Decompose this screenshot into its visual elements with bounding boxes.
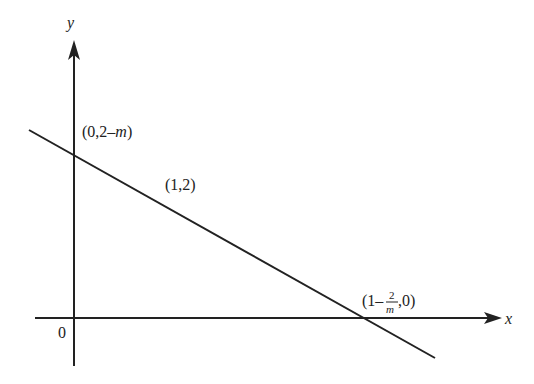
y-intercept-label: (0,2–m) xyxy=(82,123,132,141)
x-intercept-label: (1– 2 m ,0) xyxy=(362,289,415,315)
svg-text:m: m xyxy=(386,303,394,315)
svg-text:,0): ,0) xyxy=(398,292,415,310)
svg-text:(1–: (1– xyxy=(362,292,384,310)
coordinate-diagram: y x 0 (0,2–m) (1,2) (1– 2 m ,0) xyxy=(0,0,534,384)
origin-label: 0 xyxy=(58,324,66,341)
y-axis-label: y xyxy=(65,14,75,32)
svg-text:2: 2 xyxy=(389,289,395,301)
x-axis-label: x xyxy=(504,310,512,327)
point-1-2-label: (1,2) xyxy=(165,176,196,194)
graph-line xyxy=(29,130,435,358)
